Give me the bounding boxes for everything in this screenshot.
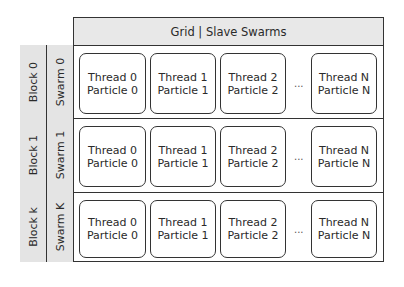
thread-card: Thread 1 Particle 1 [150, 53, 216, 114]
particle-label: Particle 1 [157, 229, 208, 242]
thread-card: Thread 0 Particle 0 [79, 53, 146, 114]
thread-label: Thread 0 [88, 71, 137, 84]
thread-card: Thread N Particle N [311, 53, 377, 114]
thread-label: Thread 1 [159, 144, 208, 157]
thread-label: Thread 0 [88, 144, 137, 157]
block-cell-1: Block 1 [20, 118, 47, 193]
thread-label: Thread 2 [229, 216, 278, 229]
thread-card: Thread 1 Particle 1 [150, 126, 216, 187]
particle-label: Particle N [318, 84, 370, 97]
ellipsis: ... [294, 224, 304, 235]
particle-label: Particle 2 [227, 84, 278, 97]
thread-label: Thread N [319, 144, 369, 157]
thread-card: Thread N Particle N [311, 126, 377, 187]
thread-card: Thread 0 Particle 0 [79, 126, 146, 187]
thread-card: Thread 0 Particle 0 [79, 200, 146, 258]
thread-card: Thread 1 Particle 1 [150, 200, 216, 258]
grid-header: Grid | Slave Swarms [73, 17, 384, 46]
thread-label: Thread 1 [159, 216, 208, 229]
block-label: Block 0 [27, 61, 40, 101]
swarm-cell-0: Swarm 0 [47, 45, 74, 119]
particle-label: Particle 0 [87, 229, 138, 242]
thread-label: Thread 0 [88, 216, 137, 229]
particle-label: Particle 0 [87, 157, 138, 170]
thread-label: Thread N [319, 71, 369, 84]
ellipsis: ... [294, 78, 304, 89]
particle-label: Particle 1 [157, 157, 208, 170]
particle-label: Particle N [318, 229, 370, 242]
swarm-cell-1: Swarm 1 [47, 118, 74, 193]
thread-card: Thread N Particle N [311, 200, 377, 258]
block-cell-k: Block k [20, 192, 47, 262]
thread-label: Thread 1 [159, 71, 208, 84]
particle-label: Particle 0 [87, 84, 138, 97]
thread-card: Thread 2 Particle 2 [220, 200, 286, 258]
block-label: Block 1 [27, 135, 40, 175]
block-cell-0: Block 0 [20, 45, 47, 119]
particle-label: Particle 2 [227, 229, 278, 242]
particle-label: Particle N [318, 157, 370, 170]
ellipsis: ... [294, 151, 304, 162]
grid-title: Grid | Slave Swarms [171, 25, 287, 39]
row-divider [73, 192, 384, 193]
swarm-cell-k: Swarm K [47, 192, 74, 262]
row-divider [73, 118, 384, 119]
thread-label: Thread N [319, 216, 369, 229]
thread-label: Thread 2 [229, 144, 278, 157]
swarm-label: Swarm 1 [54, 131, 67, 179]
particle-label: Particle 1 [157, 84, 208, 97]
block-label: Block k [27, 207, 40, 247]
swarm-label: Swarm 0 [54, 57, 67, 105]
particle-label: Particle 2 [227, 157, 278, 170]
thread-card: Thread 2 Particle 2 [220, 126, 286, 187]
thread-label: Thread 2 [229, 71, 278, 84]
swarm-label: Swarm K [54, 203, 67, 251]
thread-card: Thread 2 Particle 2 [220, 53, 286, 114]
